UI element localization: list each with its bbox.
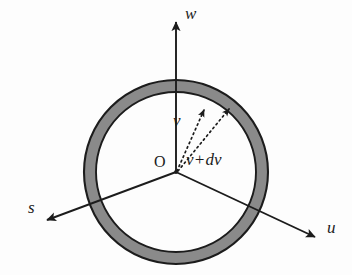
axis-label-u: u [327, 219, 336, 236]
vector-label-v: v [173, 112, 181, 129]
axis-label-s: s [28, 199, 35, 216]
figure-canvas: w s u v v+dv O [0, 0, 352, 275]
origin-label: O [154, 154, 166, 170]
diagram-svg [0, 0, 352, 275]
vector-label-v-plus-dv: v+dv [186, 151, 222, 168]
axis-label-w: w [185, 5, 196, 22]
origin-point [174, 170, 178, 174]
